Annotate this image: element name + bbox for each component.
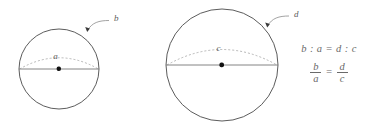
small-sphere-leader-group: b — [85, 13, 119, 32]
small-sphere-leader-line — [88, 21, 110, 31]
large-sphere-center-dot — [219, 63, 224, 68]
large-sphere-leader-group: d — [265, 9, 299, 28]
fraction-left-numerator: b — [310, 61, 321, 72]
fraction-left: b a — [310, 61, 321, 84]
fraction-right: d c — [337, 61, 348, 84]
fraction-equation: b a = d c — [288, 61, 370, 84]
large-sphere-leader-label: d — [294, 9, 299, 19]
fraction-right-numerator: d — [337, 61, 348, 72]
fraction-right-denominator: c — [337, 72, 348, 84]
ratio-equation: b : a = d : c — [288, 44, 370, 55]
large-sphere-equator-label: c — [217, 43, 221, 53]
figure-root: a b c d b : a = d : c b a — [0, 0, 372, 133]
large-sphere-group: c — [166, 9, 278, 121]
fraction-left-denominator: a — [310, 72, 321, 84]
small-sphere-group: a — [19, 29, 99, 109]
large-sphere-leader-line — [268, 16, 290, 26]
proportion-formula: b : a = d : c b a = d c — [288, 44, 370, 84]
small-sphere-center-dot — [57, 67, 61, 71]
small-sphere-leader-label: b — [114, 13, 119, 23]
small-sphere-equator-label: a — [53, 51, 58, 61]
fraction-equals-sign: = — [325, 67, 332, 78]
